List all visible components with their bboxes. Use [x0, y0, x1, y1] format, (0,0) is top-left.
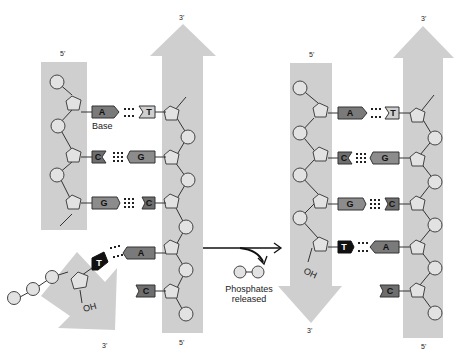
base-A-icon [92, 106, 119, 118]
phosphate-icon [51, 119, 65, 133]
hydrogen-bonds-triple [370, 199, 380, 209]
hydrogen-bonds-double [110, 245, 123, 258]
after-pair-C-G: C G [328, 152, 410, 164]
svg-text:T: T [390, 108, 396, 118]
after-right-3prime-label: 3' [421, 15, 426, 22]
phosphate-icon [27, 283, 40, 296]
hydrogen-bonds-double [371, 108, 381, 118]
phosphate-icon [181, 173, 195, 187]
svg-text:C: C [389, 199, 396, 209]
svg-text:G: G [346, 199, 353, 209]
phosphate-icon [428, 261, 442, 275]
after-pair-A-T: A T [328, 107, 410, 119]
svg-text:G: G [381, 153, 388, 163]
phosphate-icon [428, 175, 442, 189]
dna-replication-diagram: 5' 3' 5' 3' [0, 0, 460, 359]
before-right-3prime-label: 3' [179, 14, 184, 21]
hydrogen-bonds-double [124, 108, 134, 117]
phosphate-icon [428, 131, 442, 145]
svg-text:A: A [99, 107, 106, 117]
phosphate-icon [179, 263, 193, 277]
svg-text:C: C [143, 286, 150, 296]
svg-text:C: C [146, 198, 153, 208]
phosphate-icon [252, 266, 264, 278]
svg-text:C: C [95, 152, 102, 162]
after-right-5prime-label: 5' [421, 343, 426, 350]
phosphate-icon [50, 168, 64, 182]
phosphate-icon [293, 211, 307, 225]
phosphate-icon [428, 218, 442, 232]
reaction-arrow: Phosphates released [203, 243, 281, 304]
after-left-3prime-label: 3' [307, 327, 312, 334]
before-pair-T-A-incoming: A T [92, 245, 166, 270]
phosphate-icon [293, 81, 307, 95]
after-left-5prime-label: 5' [309, 51, 314, 58]
before-unpaired-C: C [136, 285, 166, 297]
phosphate-icon [46, 271, 59, 284]
svg-text:T: T [96, 258, 102, 268]
before-right-5prime-label: 5' [179, 339, 184, 346]
before-pair-C-G: C G [81, 151, 166, 163]
phosphate-icon [293, 126, 307, 140]
phosphate-icon [179, 307, 193, 321]
svg-text:C: C [341, 153, 348, 163]
svg-text:A: A [138, 248, 145, 258]
phosphate-icon [50, 75, 64, 89]
hydrogen-bonds-triple [113, 152, 123, 162]
after-left-strand-arrow [278, 63, 342, 323]
after-pair-T-A: T A [328, 241, 410, 253]
svg-text:G: G [137, 152, 144, 162]
before-left-5prime-label: 5' [60, 50, 65, 57]
incoming-3prime-label: 3' [102, 342, 107, 349]
svg-text:A: A [347, 108, 354, 118]
before-panel: 5' 3' 5' 3' [8, 14, 217, 349]
phosphates-released-line1: Phosphates [225, 284, 273, 294]
phosphate-icon [181, 130, 195, 144]
phosphate-icon [179, 220, 193, 234]
svg-text:T: T [146, 107, 152, 117]
svg-text:C: C [387, 286, 394, 296]
phosphates-released-line2: released [232, 294, 267, 304]
hydrogen-bonds-triple [124, 198, 134, 208]
hydrogen-bonds-triple [356, 153, 366, 163]
svg-text:G: G [100, 198, 107, 208]
phosphate-icon [428, 306, 442, 320]
phosphate-icon [234, 266, 246, 278]
phosphate-icon [8, 292, 21, 305]
before-pair-A-T: A T Base [81, 106, 166, 131]
hydrogen-bonds-double [358, 242, 368, 252]
svg-text:T: T [341, 242, 347, 252]
before-pair-G-C: G C [81, 197, 166, 209]
base-label: Base [92, 121, 113, 131]
svg-text:A: A [383, 242, 390, 252]
released-pyrophosphate [234, 266, 264, 278]
phosphate-icon [293, 168, 307, 182]
after-pair-G-C: G C [328, 198, 410, 210]
after-panel: 5' 3' 3' 5' OH [278, 15, 454, 350]
